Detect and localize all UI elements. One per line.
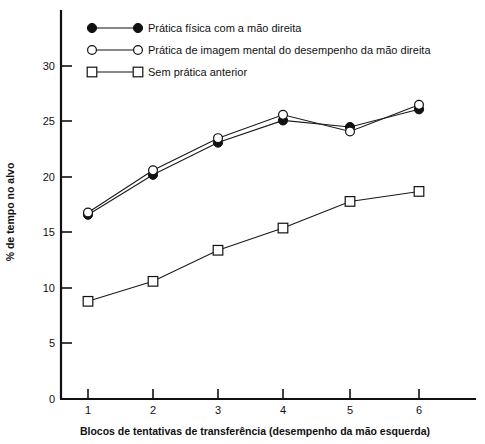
y-tick-label-25: 25	[43, 115, 55, 127]
legend-label-2: Sem prática anterior	[148, 66, 247, 78]
line-chart-canvas: 30 25 20 15 10 5 0 1 2 3 4 5 6 % de temp…	[0, 0, 485, 444]
open-square-icon	[83, 297, 93, 307]
open-square-icon	[278, 223, 288, 233]
x-tick-label-6: 6	[416, 404, 422, 416]
open-circle-icon	[214, 134, 223, 143]
series-line-1	[88, 105, 419, 213]
open-square-icon	[87, 67, 97, 77]
filled-circle-icon	[87, 23, 96, 32]
legend-item-0: Prática física com a mão direita	[87, 22, 302, 34]
x-tick-group: 1 2 3 4 5 6	[85, 389, 422, 416]
y-tick-group: 30 25 20 15 10 5 0	[43, 60, 72, 405]
series-1	[84, 100, 424, 216]
y-tick-label-20: 20	[43, 171, 55, 183]
x-axis-title: Blocos de tentativas de transferência (d…	[80, 425, 430, 437]
open-circle-icon	[149, 166, 158, 175]
open-square-icon	[345, 197, 355, 207]
legend-label-1: Prática de imagem mental do desempenho d…	[148, 44, 431, 56]
y-tick-label-0: 0	[49, 393, 55, 405]
legend-label-0: Prática física com a mão direita	[148, 22, 302, 34]
open-circle-icon	[279, 110, 288, 119]
open-square-icon	[148, 277, 158, 287]
series-layer	[83, 100, 424, 306]
open-circle-icon	[88, 46, 97, 55]
x-tick-label-5: 5	[347, 404, 353, 416]
chart-figure: 30 25 20 15 10 5 0 1 2 3 4 5 6 % de temp…	[0, 0, 485, 444]
series-2	[83, 187, 424, 306]
y-tick-label-10: 10	[43, 282, 55, 294]
open-circle-icon	[415, 100, 424, 109]
open-square-icon	[414, 187, 424, 197]
x-tick-label-1: 1	[85, 404, 91, 416]
y-axis-title: % de tempo no alvo	[4, 163, 16, 262]
open-square-icon	[133, 67, 143, 77]
x-tick-label-3: 3	[215, 404, 221, 416]
chart-legend: Prática física com a mão direita Prática…	[87, 22, 431, 78]
y-tick-label-15: 15	[43, 226, 55, 238]
legend-item-2: Sem prática anterior	[87, 66, 247, 78]
open-circle-icon	[134, 46, 143, 55]
x-tick-label-2: 2	[150, 404, 156, 416]
open-circle-icon	[84, 208, 93, 217]
open-square-icon	[213, 245, 223, 255]
y-tick-label-30: 30	[43, 60, 55, 72]
axis-group	[60, 10, 476, 399]
legend-item-1: Prática de imagem mental do desempenho d…	[88, 44, 432, 56]
series-line-2	[88, 191, 419, 301]
open-circle-icon	[346, 127, 355, 136]
y-tick-label-5: 5	[49, 337, 55, 349]
filled-circle-icon	[133, 23, 142, 32]
x-tick-label-4: 4	[280, 404, 286, 416]
series-0	[83, 105, 423, 220]
